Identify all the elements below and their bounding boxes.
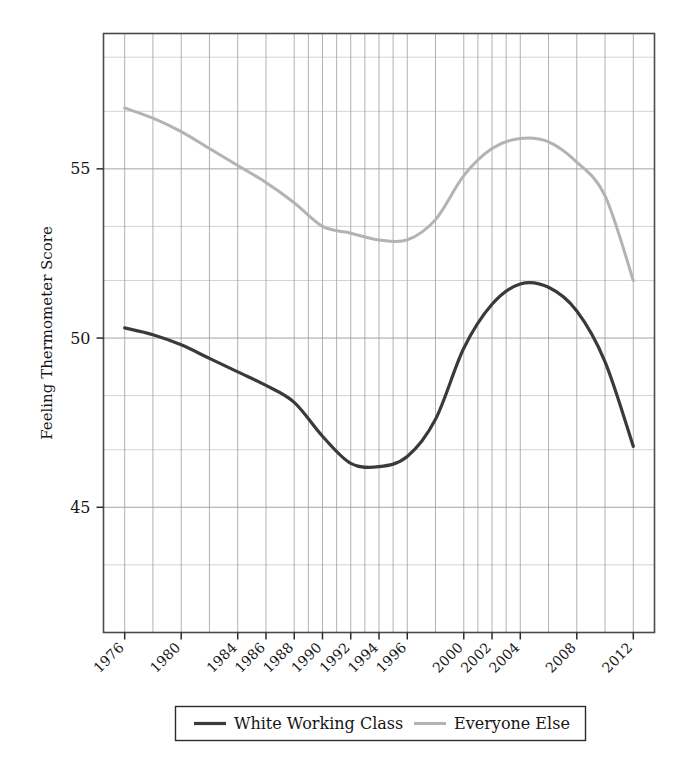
line-chart: 455055 197619801984198619881990199219941…	[0, 0, 687, 778]
y-axis-tick-label: 50	[70, 329, 90, 348]
y-axis-tick-label: 45	[70, 498, 90, 517]
legend-label-everyone-else: Everyone Else	[454, 714, 570, 733]
chart-figure: 455055 197619801984198619881990199219941…	[0, 0, 687, 778]
legend-label-white-working-class: White Working Class	[234, 714, 403, 733]
chart-legend: White Working Class Everyone Else	[176, 707, 586, 741]
y-axis-title: Feeling Thermometer Score	[38, 226, 56, 440]
y-axis-tick-label: 55	[70, 159, 90, 178]
